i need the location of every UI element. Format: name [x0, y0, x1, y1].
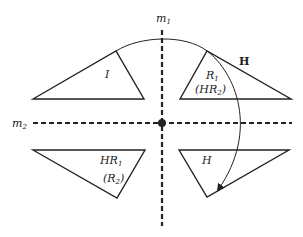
label-bottom-right: H — [201, 154, 212, 167]
arc-label-H: H — [239, 55, 249, 68]
center-point — [158, 119, 166, 127]
triangle-bottom-right — [179, 150, 289, 197]
symmetry-diagram: m1 m2 H I R1 (HR2) HR1 (R2) H — [0, 0, 303, 237]
label-top-right-2: (HR2) — [195, 83, 226, 97]
axis-label-m2: m2 — [12, 117, 27, 131]
label-top-right-1: R1 — [205, 69, 219, 83]
triangle-top-left — [33, 51, 144, 99]
axis-label-m1: m1 — [156, 12, 171, 26]
label-bottom-left-2: (R2) — [103, 172, 124, 186]
label-bottom-left-1: HR1 — [99, 154, 122, 168]
label-top-left: I — [104, 68, 110, 81]
triangle-bottom-left — [33, 150, 145, 198]
